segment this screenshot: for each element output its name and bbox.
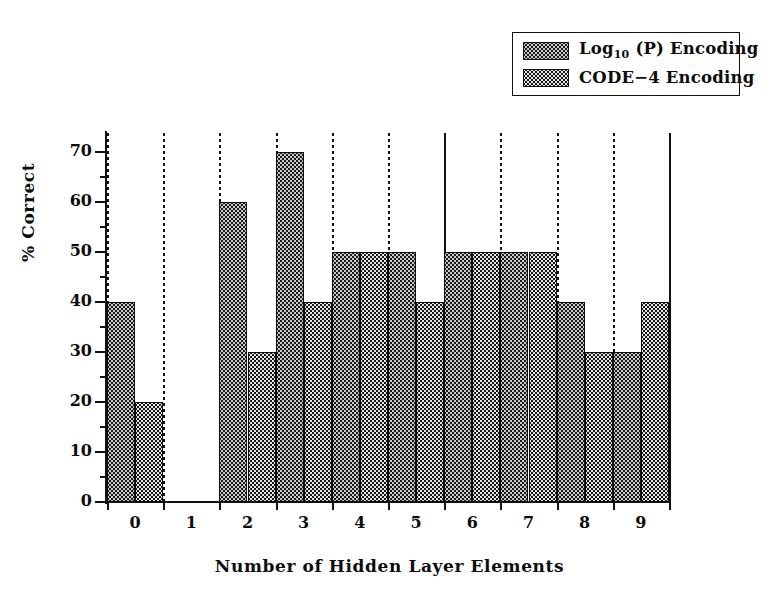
x-tick-label-5: 5 (396, 513, 436, 532)
legend-label-log10: Log10 (P) Encoding (579, 39, 759, 61)
legend-item-code4: CODE−4 Encoding (519, 64, 733, 91)
legend-swatch-dark-dotted-icon (523, 69, 569, 87)
y-tick-label: 30 (46, 341, 92, 360)
x-tick (388, 501, 390, 510)
y-tick-major (95, 151, 107, 153)
x-tick-label-1: 1 (171, 513, 211, 532)
x-tick (276, 501, 278, 510)
x-tick-label-0: 0 (115, 513, 155, 532)
bar-log10-6 (444, 252, 472, 502)
y-tick-minor (100, 376, 107, 378)
bar-code4-4 (360, 252, 388, 502)
y-tick-major (95, 451, 107, 453)
y-tick-label: 70 (46, 141, 92, 160)
grid-line-vertical (163, 133, 165, 502)
y-tick-major (95, 351, 107, 353)
x-tick-label-2: 2 (228, 513, 268, 532)
bar-code4-6 (472, 252, 500, 502)
x-tick-label-4: 4 (340, 513, 380, 532)
chart-legend: Log10 (P) Encoding CODE−4 Encoding (512, 32, 740, 96)
y-axis-title: % Correct (18, 163, 38, 262)
bar-code4-2 (248, 352, 276, 502)
x-tick (163, 501, 165, 510)
bar-log10-2 (219, 202, 247, 502)
bar-code4-8 (585, 352, 613, 502)
bar-log10-3 (276, 152, 304, 502)
x-axis-title: Number of Hidden Layer Elements (0, 556, 779, 576)
bar-log10-7 (500, 252, 528, 502)
y-tick-major (95, 301, 107, 303)
bar-log10-4 (332, 252, 360, 502)
bar-log10-8 (557, 302, 585, 502)
y-tick-major (95, 401, 107, 403)
y-tick-minor (100, 476, 107, 478)
bar-code4-3 (304, 302, 332, 502)
bar-log10-5 (388, 252, 416, 502)
bar-code4-9 (641, 302, 669, 502)
bar-code4-0 (135, 402, 163, 502)
y-tick-minor (100, 426, 107, 428)
y-tick-minor (100, 176, 107, 178)
x-tick (107, 501, 109, 510)
x-tick (444, 501, 446, 510)
y-tick-major (95, 501, 107, 503)
grid-line-vertical (669, 133, 671, 502)
x-tick (500, 501, 502, 510)
x-tick-label-7: 7 (509, 513, 549, 532)
plot-area (107, 133, 669, 502)
bar-code4-5 (416, 302, 444, 502)
x-tick (332, 501, 334, 510)
y-tick-label: 50 (46, 241, 92, 260)
bar-log10-0 (107, 302, 135, 502)
bar-chart-figure: Log10 (P) Encoding CODE−4 Encoding 01020… (0, 0, 779, 601)
y-tick-major (95, 251, 107, 253)
legend-label-code4: CODE−4 Encoding (579, 68, 754, 87)
y-tick-label: 0 (46, 491, 92, 510)
bar-log10-9 (613, 352, 641, 502)
x-tick (219, 501, 221, 510)
x-tick (613, 501, 615, 510)
y-tick-major (95, 201, 107, 203)
y-tick-label: 20 (46, 391, 92, 410)
y-tick-label: 40 (46, 291, 92, 310)
x-tick (669, 501, 671, 510)
x-tick-label-9: 9 (621, 513, 661, 532)
bar-code4-7 (529, 252, 557, 502)
x-tick-label-3: 3 (284, 513, 324, 532)
x-tick-label-8: 8 (565, 513, 605, 532)
y-tick-minor (100, 226, 107, 228)
legend-swatch-light-dotted-icon (523, 42, 569, 60)
x-tick-label-6: 6 (452, 513, 492, 532)
x-tick (557, 501, 559, 510)
y-tick-label: 60 (46, 191, 92, 210)
y-tick-label: 10 (46, 441, 92, 460)
legend-item-log10: Log10 (P) Encoding (519, 37, 733, 64)
y-tick-minor (100, 276, 107, 278)
y-tick-minor (100, 326, 107, 328)
